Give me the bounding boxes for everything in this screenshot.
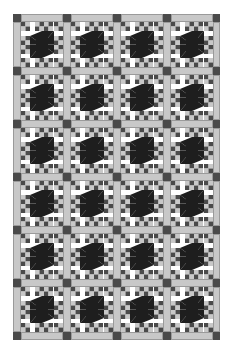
sashing-strip [71,173,113,181]
sashing-strip [63,181,71,226]
sashing-strip [71,226,113,234]
star-block [121,128,163,173]
sashing-cornerstone [213,226,220,234]
sashing-strip [171,67,213,75]
sashing-strip [113,128,121,173]
sashing-cornerstone [63,67,71,75]
sashing-strip [113,287,121,332]
star-block [21,128,63,173]
sashing-cornerstone [213,14,220,22]
star-block [121,181,163,226]
sashing-cornerstone [13,226,21,234]
star-block [71,128,113,173]
star-block [71,287,113,332]
sashing-strip [213,75,220,120]
star-block [121,75,163,120]
sashing-cornerstone [63,279,71,287]
star-block [21,287,63,332]
star-block [171,22,213,67]
sashing-cornerstone [113,226,121,234]
sashing-strip [13,75,21,120]
sashing-strip [121,173,163,181]
sashing-strip [213,287,220,332]
sashing-strip [171,279,213,287]
sashing-cornerstone [213,120,220,128]
sashing-cornerstone [63,332,71,340]
star-block [71,22,113,67]
sashing-strip [121,332,163,340]
sashing-strip [171,332,213,340]
star-block [171,287,213,332]
sashing-cornerstone [113,332,121,340]
sashing-strip [13,128,21,173]
sashing-strip [13,22,21,67]
star-block [171,128,213,173]
star-block [21,75,63,120]
star-block [21,181,63,226]
sashing-strip [71,279,113,287]
star-block [121,287,163,332]
sashing-strip [63,22,71,67]
sashing-cornerstone [63,120,71,128]
star-block [121,234,163,279]
sashing-cornerstone [213,332,220,340]
star-block [171,181,213,226]
star-block [121,22,163,67]
sashing-strip [163,234,171,279]
star-block [171,75,213,120]
sashing-strip [21,173,63,181]
sashing-cornerstone [163,332,171,340]
sashing-strip [163,128,171,173]
sashing-cornerstone [213,279,220,287]
sashing-cornerstone [113,279,121,287]
sashing-strip [21,67,63,75]
quilt [13,14,218,334]
sashing-strip [121,226,163,234]
sashing-strip [113,234,121,279]
sashing-strip [21,279,63,287]
sashing-cornerstone [113,67,121,75]
sashing-strip [171,173,213,181]
sashing-strip [71,332,113,340]
sashing-cornerstone [163,14,171,22]
sashing-cornerstone [13,67,21,75]
star-block [21,234,63,279]
sashing-cornerstone [13,173,21,181]
sashing-cornerstone [63,226,71,234]
sashing-strip [21,120,63,128]
sashing-strip [63,128,71,173]
sashing-strip [71,14,113,22]
sashing-strip [213,234,220,279]
sashing-strip [171,14,213,22]
sashing-cornerstone [113,14,121,22]
sashing-strip [163,75,171,120]
sashing-cornerstone [213,67,220,75]
sashing-strip [13,181,21,226]
sashing-cornerstone [163,173,171,181]
sashing-strip [171,226,213,234]
sashing-cornerstone [113,120,121,128]
sashing-cornerstone [163,120,171,128]
sashing-strip [163,181,171,226]
sashing-strip [113,22,121,67]
sashing-strip [21,226,63,234]
sashing-cornerstone [13,279,21,287]
sashing-cornerstone [63,14,71,22]
sashing-strip [71,120,113,128]
sashing-strip [63,287,71,332]
sashing-strip [163,22,171,67]
star-block [71,234,113,279]
sashing-strip [21,332,63,340]
sashing-strip [63,75,71,120]
sashing-cornerstone [13,332,21,340]
sashing-strip [213,22,220,67]
sashing-cornerstone [63,173,71,181]
sashing-cornerstone [113,173,121,181]
sashing-cornerstone [13,14,21,22]
sashing-strip [213,181,220,226]
sashing-strip [113,181,121,226]
sashing-strip [163,287,171,332]
star-block [171,234,213,279]
sashing-cornerstone [213,173,220,181]
sashing-cornerstone [163,67,171,75]
